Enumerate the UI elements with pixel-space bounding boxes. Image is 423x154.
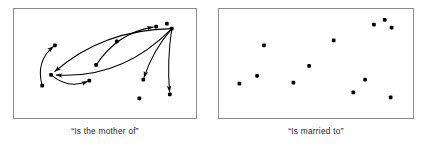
graph-node <box>94 63 98 67</box>
graph-node <box>351 91 355 95</box>
sociogram-panel-married-to <box>218 8 414 119</box>
graph-node <box>168 93 172 97</box>
graph-canvas-mother-of <box>14 9 196 118</box>
graph-edge <box>40 46 53 85</box>
graph-node <box>165 22 169 26</box>
graph-node <box>154 25 158 29</box>
caption-married-to: “Is married to” <box>218 126 414 136</box>
sociogram-panel-mother-of <box>13 8 197 119</box>
graph-node <box>383 18 387 22</box>
graph-edge <box>144 29 172 78</box>
graph-node <box>40 84 44 88</box>
caption-mother-of: “Is the mother of” <box>13 126 197 136</box>
graph-edge <box>51 75 88 84</box>
graph-node <box>262 43 266 47</box>
graph-node <box>238 82 242 86</box>
graph-node <box>115 40 119 44</box>
graph-node <box>141 78 145 82</box>
graph-node <box>390 26 394 30</box>
graph-edge <box>169 29 172 92</box>
graph-node <box>332 39 336 43</box>
graph-edge <box>55 29 172 72</box>
graph-canvas-married-to <box>219 9 413 118</box>
graph-node <box>307 64 311 68</box>
graph-node <box>87 79 91 83</box>
graph-edge <box>56 29 172 76</box>
graph-node <box>49 73 53 77</box>
graph-node <box>255 74 259 78</box>
graph-edge <box>96 27 153 65</box>
graph-node <box>389 96 393 100</box>
graph-node <box>372 23 376 27</box>
graph-node <box>138 96 142 100</box>
graph-node <box>170 27 174 31</box>
graph-node <box>292 81 296 85</box>
figure-container: “Is the mother of” “Is married to” <box>0 0 423 154</box>
graph-node <box>363 78 367 82</box>
graph-node <box>53 43 57 47</box>
